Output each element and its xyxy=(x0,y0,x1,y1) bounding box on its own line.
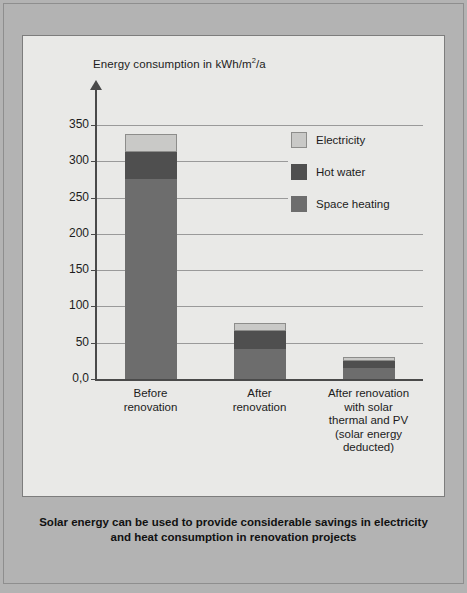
chart-legend: ElectricityHot waterSpace heating xyxy=(291,131,390,227)
y-axis-arrow-icon xyxy=(90,80,102,90)
bar-3[interactable] xyxy=(343,357,395,379)
legend-swatch-icon xyxy=(291,164,307,180)
y-tick-label-250: 250 xyxy=(43,190,89,204)
bar-2-segment-electricity[interactable] xyxy=(234,323,286,331)
bar-3-segment-hotwater[interactable] xyxy=(343,361,395,368)
legend-item-electricity[interactable]: Electricity xyxy=(291,131,390,148)
x-axis-label-line: After xyxy=(205,387,314,401)
x-axis-label-1: Beforerenovation xyxy=(96,387,205,414)
x-axis-label-line: After renovation xyxy=(314,387,423,401)
bar-2-segment-spaceheating[interactable] xyxy=(234,349,286,379)
y-tick-label-300: 300 xyxy=(43,153,89,167)
gridline-350 xyxy=(96,125,423,126)
bar-1-segment-electricity[interactable] xyxy=(125,134,177,152)
y-tick-label-200: 200 xyxy=(43,226,89,240)
legend-swatch-icon xyxy=(291,196,307,212)
figure-caption: Solar energy can be used to provide cons… xyxy=(30,515,437,545)
x-axis-label-line: renovation xyxy=(96,401,205,415)
x-axis-label-line: with solar xyxy=(314,401,423,415)
y-tick-label-0: 0,0 xyxy=(43,371,89,385)
figure-outer-frame: Energy consumption in kWh/m2/a 0,0501001… xyxy=(0,0,467,587)
y-axis-line xyxy=(95,88,97,380)
x-axis-label-3: After renovationwith solarthermal and PV… xyxy=(314,387,423,455)
legend-label: Electricity xyxy=(316,134,365,146)
bar-1-segment-hotwater[interactable] xyxy=(125,152,177,179)
bar-2-segment-hotwater[interactable] xyxy=(234,331,286,349)
legend-item-space-heating[interactable]: Space heating xyxy=(291,195,390,212)
y-tick-label-50: 50 xyxy=(43,335,89,349)
x-axis-label-line: Before xyxy=(96,387,205,401)
x-axis-label-line: (solar energy xyxy=(314,428,423,442)
legend-swatch-icon xyxy=(291,132,307,148)
bar-3-segment-electricity[interactable] xyxy=(343,357,395,361)
x-axis-label-line: deducted) xyxy=(314,441,423,455)
y-tick-label-100: 100 xyxy=(43,298,89,312)
x-axis-label-line: renovation xyxy=(205,401,314,415)
legend-label: Hot water xyxy=(316,166,365,178)
bar-2[interactable] xyxy=(234,323,286,379)
legend-item-hot-water[interactable]: Hot water xyxy=(291,163,390,180)
y-tick-label-350: 350 xyxy=(43,117,89,131)
bar-3-segment-spaceheating[interactable] xyxy=(343,368,395,379)
chart-panel: Energy consumption in kWh/m2/a 0,0501001… xyxy=(22,35,445,497)
bar-1-segment-spaceheating[interactable] xyxy=(125,179,177,379)
y-tick-label-150: 150 xyxy=(43,262,89,276)
x-axis-label-line: thermal and PV xyxy=(314,414,423,428)
plot-area: 0,050100150200250300350 Beforerenovation… xyxy=(23,36,446,498)
x-axis-line xyxy=(95,379,423,381)
bar-1[interactable] xyxy=(125,134,177,379)
x-axis-label-2: Afterrenovation xyxy=(205,387,314,414)
legend-label: Space heating xyxy=(316,198,390,210)
